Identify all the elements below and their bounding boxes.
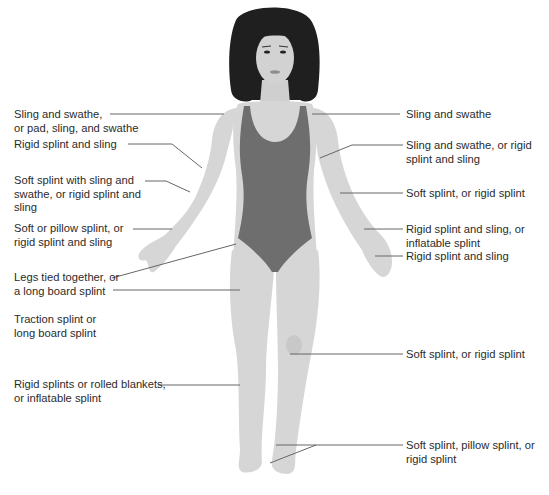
label-ankle-foot-right: Soft splint, pillow splint, or rigid spl… [406, 439, 535, 466]
label-humerus-right: Sling and swathe, or rigid splint and sl… [406, 139, 532, 166]
label-upper-arm-left: Rigid splint and sling [14, 138, 117, 152]
label-hand-right: Rigid splint and sling [406, 250, 509, 264]
label-femur: Traction splint or long board splint [14, 313, 96, 340]
label-clavicle-right: Sling and swathe [406, 108, 491, 122]
right-leg [272, 250, 320, 474]
label-elbow-right: Soft splint, or rigid splint [406, 187, 525, 201]
label-pelvis: Legs tied together, or a long board spli… [14, 271, 119, 298]
label-shoulder-left: Sling and swathe, or pad, sling, and swa… [14, 108, 138, 135]
label-elbow-left: Soft splint with sling and swathe, or ri… [14, 174, 141, 215]
left-leg [230, 250, 274, 473]
label-knee-right: Soft splint, or rigid splint [406, 348, 525, 362]
label-wrist-right: Rigid splint and sling, or inflatable sp… [406, 223, 525, 250]
label-forearm-left: Soft or pillow splint, or rigid splint a… [14, 222, 123, 249]
face [256, 32, 294, 84]
label-lower-leg: Rigid splints or rolled blankets, or inf… [14, 378, 166, 405]
